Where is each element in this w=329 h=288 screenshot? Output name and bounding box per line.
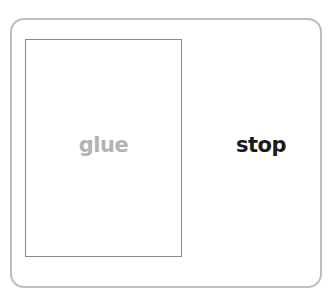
- slot-word-glue[interactable]: glue: [25, 133, 182, 157]
- option-word-stop[interactable]: stop: [212, 133, 310, 157]
